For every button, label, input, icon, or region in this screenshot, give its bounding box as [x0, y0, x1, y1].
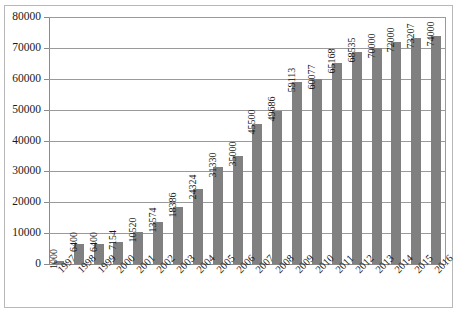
x-axis-tick-label: 2013: [374, 253, 396, 275]
y-axis-tick-mark: [44, 48, 49, 49]
x-axis-tick-label: 2003: [175, 253, 197, 275]
y-axis-tick-labels: 8000070000600005000040000300002000010000…: [0, 0, 41, 316]
x-axis-tick-label: 2012: [354, 253, 376, 275]
x-axis-tick-label: 2011: [334, 253, 356, 275]
x-axis-tick-label: 1999: [96, 253, 118, 275]
x-axis-tick-label: 2001: [135, 253, 157, 275]
x-axis-tick-label: 2005: [215, 253, 237, 275]
x-axis-tick-label: 2015: [413, 253, 435, 275]
y-axis-tick-label: 80000: [12, 11, 41, 23]
x-axis-tick-label: 2006: [235, 253, 257, 275]
x-axis-tick-label: 2014: [393, 253, 415, 275]
y-axis-tick-mark: [44, 202, 49, 203]
y-axis-tick-mark: [44, 110, 49, 111]
y-axis-tick-label: 60000: [12, 73, 41, 85]
x-axis-tick-label: 2004: [195, 253, 217, 275]
y-axis-tick-mark: [44, 233, 49, 234]
y-axis-tick-mark: [44, 264, 49, 265]
y-axis-tick-label: 0: [35, 258, 41, 270]
y-axis-tick-label: 10000: [12, 227, 41, 239]
x-axis-tick-label: 2002: [155, 253, 177, 275]
x-axis-tick-label: 1998: [76, 253, 98, 275]
y-axis-tick-mark: [44, 79, 49, 80]
x-axis-tick-labels: 1997199819992000200120022003200420052006…: [49, 0, 446, 316]
y-axis-tick-label: 30000: [12, 165, 41, 177]
y-axis-tick-mark: [44, 171, 49, 172]
x-axis-tick-label: 2000: [115, 253, 137, 275]
x-axis-tick-label: 2008: [274, 253, 296, 275]
y-axis-tick-mark: [44, 141, 49, 142]
y-axis-tick-mark: [44, 17, 49, 18]
y-axis-tick-label: 70000: [12, 42, 41, 54]
y-axis-tick-label: 40000: [12, 135, 41, 147]
x-axis-tick-label: 1997: [56, 253, 78, 275]
y-axis-tick-label: 20000: [12, 196, 41, 208]
x-axis-tick-label: 2010: [314, 253, 336, 275]
bar-chart-figure: 8000070000600005000040000300002000010000…: [0, 0, 459, 316]
x-axis-tick-label: 2009: [294, 253, 316, 275]
y-axis-tick-label: 50000: [12, 104, 41, 116]
x-axis-tick-label: 2007: [254, 253, 276, 275]
